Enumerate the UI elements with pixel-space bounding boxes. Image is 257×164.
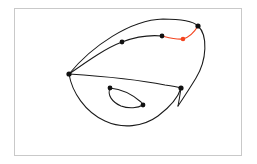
edges-layer: [69, 19, 205, 126]
edge-lower-outer-left: [69, 74, 181, 126]
edge-inner-loop-lower: [109, 88, 143, 108]
node-v-upper-mid: [120, 40, 125, 45]
node-v-top-right: [195, 23, 200, 28]
node-v-right: [178, 85, 183, 90]
edge-highlight-red-arc: [162, 26, 198, 39]
edge-chord-left-to-mid: [69, 36, 162, 74]
node-v-red-mid: [181, 37, 186, 42]
node-v-loop-bottom: [141, 103, 146, 108]
edge-outer-upper-arc: [69, 19, 198, 74]
edge-inner-sweep-left-to-right: [69, 74, 181, 88]
node-v-loop-top: [108, 86, 113, 91]
node-v-chord-mid: [160, 34, 165, 39]
node-v-left: [66, 71, 71, 76]
figure-root: [0, 0, 257, 164]
diagram-canvas: [0, 0, 257, 164]
